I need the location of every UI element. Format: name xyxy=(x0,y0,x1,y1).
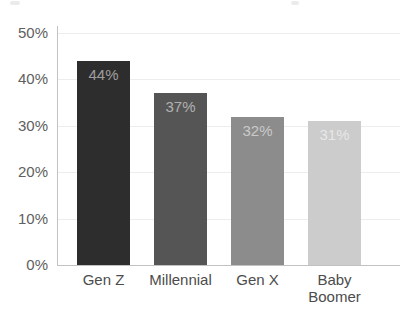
y-tick-label: 20% xyxy=(0,164,48,180)
bar-value-label: 32% xyxy=(231,122,284,139)
bar-value-label: 44% xyxy=(77,66,130,83)
y-axis-line xyxy=(57,26,58,265)
x-category-label: Baby Boomer xyxy=(300,271,370,305)
y-tick-label: 0% xyxy=(0,257,48,273)
bar-millennial: 37% xyxy=(154,93,207,265)
crop-artifact xyxy=(291,1,299,5)
x-category-label: Millennial xyxy=(146,271,216,288)
y-tick-label: 40% xyxy=(0,71,48,87)
bar-baby-boomer: 31% xyxy=(308,121,361,265)
x-axis-line xyxy=(57,265,400,266)
x-category-label: Gen Z xyxy=(69,271,139,288)
y-tick-label: 10% xyxy=(0,211,48,227)
x-category-label: Gen X xyxy=(223,271,293,288)
crop-artifact xyxy=(10,1,20,5)
bar-value-label: 31% xyxy=(308,126,361,143)
bar-gen-x: 32% xyxy=(231,117,284,265)
gridline xyxy=(58,33,400,34)
y-tick-label: 30% xyxy=(0,118,48,134)
bar-chart: 0%10%20%30%40%50% 44%37%32%31% Gen ZMill… xyxy=(0,0,417,318)
y-tick-label: 50% xyxy=(0,25,48,41)
bar-value-label: 37% xyxy=(154,98,207,115)
bar-gen-z: 44% xyxy=(77,61,130,265)
